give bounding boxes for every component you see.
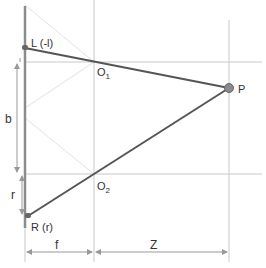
label-Z: Z [150, 238, 157, 252]
label-R: R (r) [31, 221, 53, 233]
label-P: P [238, 83, 245, 95]
construction-lines [25, 5, 94, 174]
ray-L-to-P [25, 48, 229, 88]
label-f: f [55, 238, 59, 252]
label-O1-sub: 1 [106, 72, 111, 81]
ray-R-to-P [28, 88, 229, 216]
label-O2: O2 [97, 180, 111, 195]
grid-lines [25, 0, 262, 262]
dimension-b [17, 58, 20, 172]
stereo-diagram: L (-l) O1 P b O2 r R (r) f Z [0, 0, 266, 268]
label-O2-sub: 2 [106, 186, 111, 195]
label-O1: O1 [97, 66, 111, 81]
point-P [225, 84, 234, 93]
label-r: r [11, 188, 15, 202]
point-R [25, 213, 31, 218]
label-L: L (-l) [31, 37, 53, 49]
point-L [22, 45, 28, 50]
rays [25, 48, 229, 216]
label-b: b [5, 112, 12, 126]
